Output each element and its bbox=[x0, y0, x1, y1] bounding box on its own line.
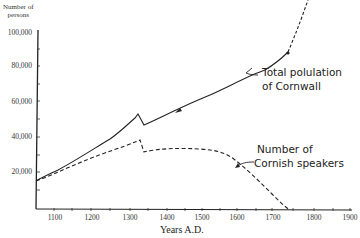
y-axis-label-line1: Number of bbox=[3, 3, 34, 11]
cornish-speakers-annotation: Number of Cornish speakers bbox=[254, 142, 344, 170]
y-axis bbox=[36, 30, 38, 209]
x-tick-1200: 1200 bbox=[85, 213, 100, 222]
total-annotation-line2: of Cornwall bbox=[262, 79, 342, 93]
x-tick-1300: 1300 bbox=[123, 213, 138, 222]
total-annotation-line1: Total polulation bbox=[262, 65, 342, 79]
total-population-line bbox=[36, 52, 288, 181]
total-population-projection bbox=[288, 0, 308, 52]
y-axis-label: Number of persons bbox=[3, 3, 34, 19]
x-tick-1600: 1600 bbox=[230, 213, 245, 222]
y-tick-60000: 60,000 bbox=[11, 97, 32, 106]
total-population-annotation: Total polulation of Cornwall bbox=[262, 65, 342, 93]
speakers-annotation-line2: Cornish speakers bbox=[254, 156, 344, 170]
x-tick-1500: 1500 bbox=[195, 213, 210, 222]
data-marker bbox=[286, 51, 289, 54]
x-tick-1100: 1100 bbox=[48, 213, 63, 222]
cornish-speakers-line bbox=[36, 140, 290, 210]
y-axis-label-line2: persons bbox=[3, 11, 34, 19]
x-axis bbox=[36, 209, 352, 210]
speakers-annotation-line1: Number of bbox=[254, 142, 344, 156]
x-tick-1400: 1400 bbox=[160, 213, 175, 222]
y-tick-100000: 100,000 bbox=[8, 28, 32, 37]
x-tick-1800: 1800 bbox=[307, 213, 322, 222]
y-tick-40000: 40,000 bbox=[11, 132, 32, 141]
x-tick-1900: 1900 bbox=[343, 213, 358, 222]
x-tick-1700: 1700 bbox=[266, 213, 281, 222]
y-tick-20000: 20,000 bbox=[11, 167, 32, 176]
x-axis-label: Years A.D. bbox=[160, 224, 204, 235]
y-tick-80000: 80,000 bbox=[11, 61, 32, 70]
chart-canvas bbox=[0, 0, 360, 238]
